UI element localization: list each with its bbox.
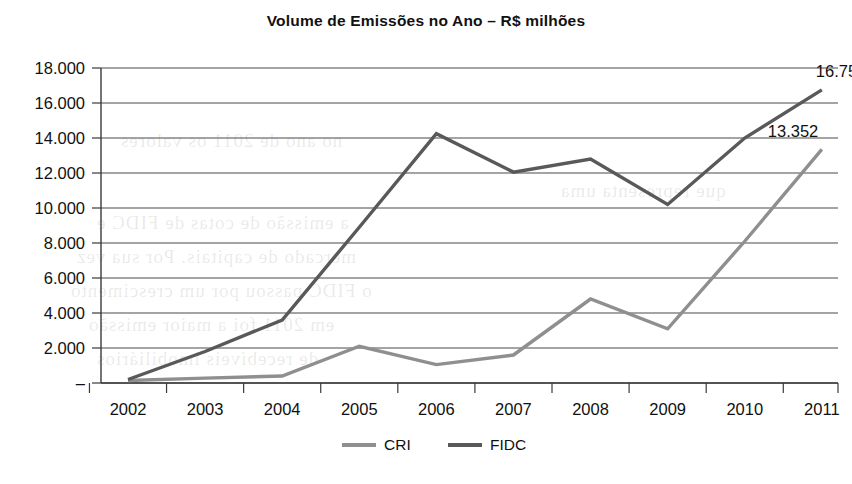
x-axis-tick-label: 2007 bbox=[495, 400, 532, 418]
x-axis-tick-label: 2006 bbox=[418, 400, 455, 418]
y-axis-tick-label: 12.000 bbox=[35, 164, 85, 182]
y-axis-tick-label: 18.000 bbox=[35, 59, 85, 77]
y-axis-tick-label: – bbox=[76, 374, 86, 392]
chart-plot-area: –2.0004.0006.0008.00010.00012.00014.0001… bbox=[0, 0, 852, 484]
data-label-cri: 13.352 bbox=[768, 122, 818, 140]
x-axis-tick-label: 2004 bbox=[264, 400, 301, 418]
y-axis-tick-label: 4.000 bbox=[44, 304, 85, 322]
line-chart-svg: –2.0004.0006.0008.00010.00012.00014.0001… bbox=[0, 0, 852, 484]
x-axis-tick-label: 2009 bbox=[649, 400, 686, 418]
x-axis-tick-label: 2010 bbox=[726, 400, 763, 418]
data-label-fidc: 16.752 bbox=[816, 62, 852, 80]
legend-label-cri: CRI bbox=[384, 436, 411, 453]
y-axis-tick-label: 16.000 bbox=[35, 94, 85, 112]
y-axis-tick-label: 6.000 bbox=[44, 269, 85, 287]
y-axis-tick-label: 10.000 bbox=[35, 199, 85, 217]
legend-label-fidc: FIDC bbox=[490, 436, 526, 453]
series-line-cri bbox=[128, 149, 822, 380]
series-line-fidc bbox=[128, 90, 822, 380]
x-axis-tick-label: 2003 bbox=[187, 400, 224, 418]
x-axis-tick-label: 2008 bbox=[572, 400, 609, 418]
x-axis-tick-label: 2002 bbox=[110, 400, 147, 418]
y-axis-tick-label: 14.000 bbox=[35, 129, 85, 147]
y-axis-tick-label: 8.000 bbox=[44, 234, 85, 252]
x-axis-tick-label: 2005 bbox=[341, 400, 378, 418]
y-axis-tick-label: 2.000 bbox=[44, 339, 85, 357]
x-axis-tick-label: 2011 bbox=[804, 400, 839, 418]
